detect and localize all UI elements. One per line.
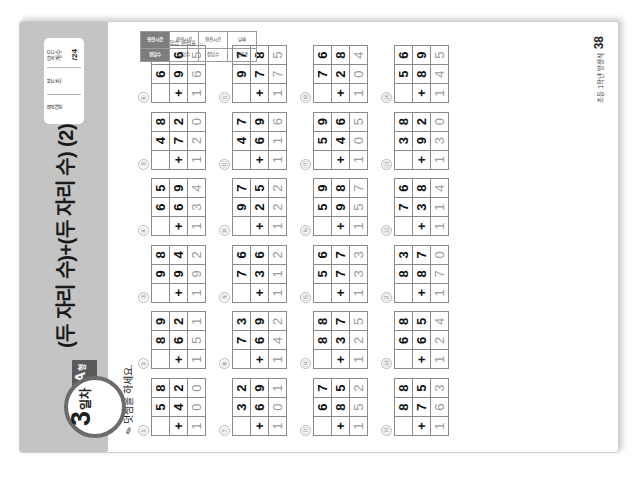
addition-operand-row: +85 <box>332 379 350 436</box>
sum-hundreds[interactable]: 1 <box>269 150 287 169</box>
sum-tens[interactable]: 3 <box>188 198 206 217</box>
problem-number: ③ <box>138 292 149 303</box>
addition-operand-row: 76 <box>314 46 332 103</box>
operand-pad <box>152 84 170 103</box>
sum-tens[interactable]: 0 <box>350 65 368 84</box>
operand-pad <box>395 84 413 103</box>
sum-tens[interactable]: 1 <box>269 131 287 150</box>
addition-answer-row: 100 <box>188 379 206 436</box>
addition-operand-row: 47 <box>233 112 251 169</box>
sum-hundreds[interactable]: 1 <box>269 283 287 302</box>
sum-tens[interactable]: 3 <box>350 264 368 283</box>
sum-hundreds[interactable]: 1 <box>350 283 368 302</box>
sum-tens[interactable]: 1 <box>431 198 449 217</box>
sum-hundreds[interactable]: 1 <box>350 150 368 169</box>
addition-operand-row: +89 <box>413 46 431 103</box>
grade-table-cell: 걸린시간 <box>141 32 170 49</box>
addition-box: 76+36112 <box>232 245 287 303</box>
sum-ones[interactable]: 2 <box>269 245 287 264</box>
sum-hundreds[interactable]: 1 <box>188 217 206 236</box>
sum-hundreds[interactable]: 1 <box>350 217 368 236</box>
sum-hundreds[interactable]: 1 <box>269 417 287 436</box>
grade-table-row: 확인란날짜 <box>228 32 257 62</box>
addend2-ones: 8 <box>332 179 350 198</box>
sum-ones[interactable]: 0 <box>188 112 206 131</box>
sum-hundreds[interactable]: 1 <box>269 350 287 369</box>
sum-ones[interactable]: 0 <box>431 112 449 131</box>
addend1-tens: 3 <box>395 131 413 150</box>
sum-ones[interactable]: 5 <box>431 46 449 65</box>
problem-number: ⑩ <box>219 225 230 236</box>
sum-ones[interactable]: 4 <box>431 312 449 331</box>
sum-ones[interactable]: 0 <box>431 245 449 264</box>
sum-hundreds[interactable]: 1 <box>188 283 206 302</box>
sum-tens[interactable]: 2 <box>431 331 449 350</box>
sum-tens[interactable]: 6 <box>431 398 449 417</box>
sum-ones[interactable]: 3 <box>350 245 368 264</box>
addition-operand-row: 67 <box>314 379 332 436</box>
sum-tens[interactable]: 4 <box>269 331 287 350</box>
sum-hundreds[interactable]: 1 <box>269 84 287 103</box>
sum-tens[interactable]: 4 <box>431 65 449 84</box>
sum-tens[interactable]: 0 <box>188 398 206 417</box>
problem-cell: ⑭88+37125 <box>300 303 368 370</box>
sum-hundreds[interactable]: 1 <box>188 350 206 369</box>
sum-ones[interactable]: 7 <box>350 179 368 198</box>
addend2-tens: 6 <box>413 331 431 350</box>
sum-tens[interactable]: 2 <box>350 331 368 350</box>
sum-tens[interactable]: 9 <box>188 264 206 283</box>
sum-hundreds[interactable]: 1 <box>188 417 206 436</box>
sum-ones[interactable]: 2 <box>269 179 287 198</box>
grade-strip: 스스로 학습 관리표 ··· 정답수걸린시간정답수걸린시간정답수걸린시간확인란날… <box>140 31 290 53</box>
sum-ones[interactable]: 4 <box>188 179 206 198</box>
sum-hundreds[interactable]: 1 <box>350 350 368 369</box>
sum-hundreds[interactable]: 1 <box>431 217 449 236</box>
sum-tens[interactable]: 1 <box>269 264 287 283</box>
sum-ones[interactable]: 2 <box>350 379 368 398</box>
sum-tens[interactable]: 2 <box>269 198 287 217</box>
sum-hundreds[interactable]: 1 <box>431 84 449 103</box>
sum-hundreds[interactable]: 1 <box>431 417 449 436</box>
sum-ones[interactable]: 3 <box>431 379 449 398</box>
sum-hundreds[interactable]: 1 <box>431 150 449 169</box>
sum-hundreds[interactable]: 1 <box>350 417 368 436</box>
sum-tens[interactable]: 7 <box>269 65 287 84</box>
sum-ones[interactable]: 1 <box>188 312 206 331</box>
sum-ones[interactable]: 5 <box>350 112 368 131</box>
sum-tens[interactable]: 0 <box>350 131 368 150</box>
problem-cell: ㉒76+38114 <box>381 170 449 237</box>
sum-tens[interactable]: 5 <box>188 331 206 350</box>
addition-box: 38+92130 <box>394 112 449 170</box>
grade-table-cell: 정답수 <box>199 49 228 62</box>
sum-hundreds[interactable]: 1 <box>431 283 449 302</box>
sum-ones[interactable]: 4 <box>350 46 368 65</box>
addition-answer-row: 145 <box>431 46 449 103</box>
sum-ones[interactable]: 6 <box>269 112 287 131</box>
sum-ones[interactable]: 2 <box>188 245 206 264</box>
sum-tens[interactable]: 6 <box>188 65 206 84</box>
sum-tens[interactable]: 7 <box>431 264 449 283</box>
sum-tens[interactable]: 5 <box>350 198 368 217</box>
sum-tens[interactable]: 0 <box>269 398 287 417</box>
sum-ones[interactable]: 4 <box>431 179 449 198</box>
sum-hundreds[interactable]: 1 <box>188 84 206 103</box>
sum-hundreds[interactable]: 1 <box>431 350 449 369</box>
addition-operand-row: 58 <box>152 379 170 436</box>
addition-operand-row: 48 <box>152 112 170 169</box>
addend2-tens: 9 <box>332 198 350 217</box>
addend1-ones: 8 <box>152 112 170 131</box>
sum-ones[interactable]: 0 <box>188 379 206 398</box>
sum-ones[interactable]: 2 <box>269 312 287 331</box>
addend1-ones: 8 <box>314 312 332 331</box>
sum-ones[interactable]: 1 <box>269 379 287 398</box>
sum-hundreds[interactable]: 1 <box>350 84 368 103</box>
sum-hundreds[interactable]: 1 <box>188 150 206 169</box>
sum-tens[interactable]: 5 <box>350 398 368 417</box>
sum-tens[interactable]: 2 <box>188 131 206 150</box>
sum-ones[interactable]: 5 <box>350 312 368 331</box>
addition-operand-row: 65 <box>152 179 170 236</box>
addend2-ones: 5 <box>413 379 431 398</box>
sum-hundreds[interactable]: 1 <box>269 217 287 236</box>
sum-tens[interactable]: 3 <box>431 131 449 150</box>
operand-pad <box>314 84 332 103</box>
